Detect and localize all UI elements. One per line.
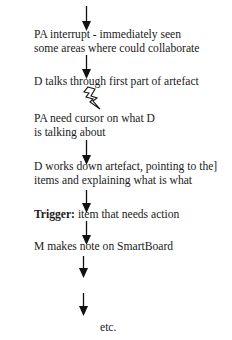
step-text-line: items and explaining what is what xyxy=(34,174,217,188)
step-text-line: PA interrupt - immediately seen xyxy=(34,28,199,42)
trigger-text: item that needs action xyxy=(75,208,179,221)
flow-step-etc: etc. xyxy=(100,321,116,335)
arrow-down-icon xyxy=(79,256,88,278)
flow-step-d-works-down: D works down artefact, pointing to the] … xyxy=(34,160,217,188)
step-text-line: etc. xyxy=(100,321,116,335)
flow-step-m-makes-note: M makes note on SmartBoard xyxy=(34,240,173,254)
step-text-line: D talks through first part of artefact xyxy=(34,75,199,89)
flow-step-pa-need-cursor: PA need cursor on what D is talking abou… xyxy=(34,112,155,140)
step-text-line: is talking about xyxy=(34,126,155,140)
trigger-label: Trigger: xyxy=(34,208,75,221)
arrow-down-icon xyxy=(79,293,88,316)
step-text-line: some areas where could collaborate xyxy=(34,42,199,56)
flow-step-trigger: Trigger: item that needs action xyxy=(34,208,179,222)
flow-step-d-talks-through: D talks through first part of artefact xyxy=(34,75,199,89)
flow-step-pa-interrupt: PA interrupt - immediately seen some are… xyxy=(34,28,199,56)
step-text-line: D works down artefact, pointing to the] xyxy=(34,160,217,174)
step-text-line: M makes note on SmartBoard xyxy=(34,240,173,254)
lightning-bolt-icon xyxy=(84,87,100,109)
step-text-line: PA need cursor on what D xyxy=(34,112,155,126)
